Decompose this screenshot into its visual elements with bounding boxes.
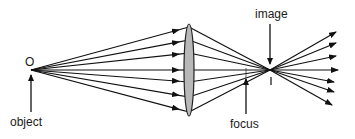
- image-label: image: [255, 8, 288, 20]
- converging-ray: [189, 27, 270, 70]
- diverging-ray: [270, 32, 336, 70]
- object-label: object: [10, 116, 42, 128]
- convex-lens: [184, 24, 194, 116]
- incoming-ray: [31, 70, 179, 95]
- converging-ray: [189, 70, 270, 97]
- converging-rays: [189, 27, 270, 112]
- lens-ray-diagram: [0, 0, 355, 139]
- incoming-rays: [31, 27, 189, 112]
- diverging-ray: [270, 56, 336, 70]
- diverging-ray: [270, 43, 336, 70]
- incoming-ray: [31, 30, 179, 70]
- focus-label: focus: [230, 118, 259, 130]
- outgoing-rays: [270, 32, 338, 105]
- object-point-label: O: [25, 56, 34, 68]
